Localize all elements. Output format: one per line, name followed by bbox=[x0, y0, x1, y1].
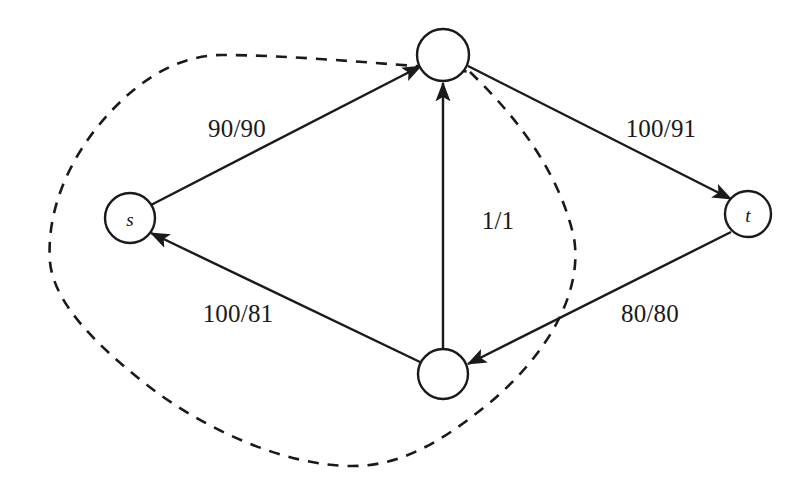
node-top[interactable] bbox=[417, 29, 469, 81]
edge-label-top-to-t: 100/91 bbox=[626, 115, 697, 142]
edge-label-bottom-to-top: 1/1 bbox=[482, 207, 515, 234]
flow-network-svg: s t 90/90 100/91 80/80 100/81 1/1 bbox=[0, 0, 808, 490]
edge-label-s-to-top: 90/90 bbox=[208, 115, 266, 142]
edge-t-to-bottom bbox=[468, 232, 731, 364]
diagram-canvas: s t 90/90 100/91 80/80 100/81 1/1 bbox=[0, 0, 808, 490]
edge-label-t-to-bottom: 80/80 bbox=[621, 300, 679, 327]
edge-s-to-top bbox=[151, 66, 421, 205]
node-s-label: s bbox=[126, 209, 133, 230]
node-t-label: t bbox=[745, 205, 751, 226]
cut-boundary bbox=[50, 55, 576, 466]
node-bottom[interactable] bbox=[418, 349, 468, 399]
edge-bottom-to-s bbox=[151, 233, 420, 362]
edge-label-bottom-to-s: 100/81 bbox=[203, 300, 274, 327]
